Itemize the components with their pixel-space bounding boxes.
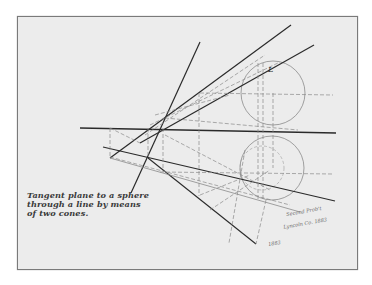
title-line-3: of two cones.	[27, 209, 177, 218]
given-line-vertical	[131, 42, 200, 193]
drawing-title: Tangent plane to a sphere through a line…	[27, 191, 177, 218]
point-label: L	[267, 65, 273, 74]
geometry-drawing: L	[0, 0, 372, 285]
lower-sphere-circle	[240, 136, 304, 200]
upper-tangent-line	[110, 25, 291, 158]
